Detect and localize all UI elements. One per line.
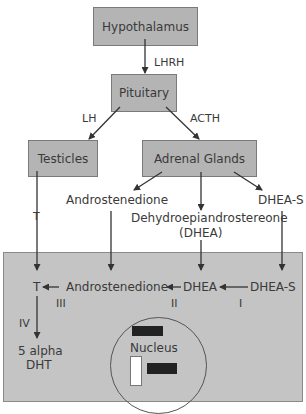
t-cell-label: T bbox=[33, 280, 40, 294]
acth-label: ACTH bbox=[190, 112, 220, 125]
dheas-top-label: DHEA-S bbox=[258, 193, 304, 207]
dhea-long-label-line1: Dehydroepiandrostereone bbox=[131, 211, 288, 225]
dhea-long-label-line2: (DHEA) bbox=[179, 226, 222, 240]
step-ii-label: II bbox=[171, 297, 178, 310]
step-iii-label: III bbox=[56, 297, 66, 310]
arrow-adrenal-dheas bbox=[234, 172, 262, 190]
dhea-cell-label: DHEA bbox=[183, 280, 217, 294]
dht-label-line2: DHT bbox=[26, 358, 52, 372]
receptor-block-top bbox=[132, 326, 163, 336]
receptor-block-bottom bbox=[147, 363, 177, 374]
dheas-cell-label: DHEA-S bbox=[250, 280, 296, 294]
nucleus-label: Nucleus bbox=[130, 341, 178, 355]
t-edge-label: T bbox=[33, 210, 40, 223]
dht-label-line1: 5 alpha bbox=[18, 344, 63, 358]
androstenedione-top-label: Androstenedione bbox=[66, 193, 168, 207]
androstenedione-cell-label: Androstenedione bbox=[66, 280, 168, 294]
lhrh-label: LHRH bbox=[154, 56, 184, 69]
dna-block bbox=[130, 356, 142, 386]
step-iv-label: IV bbox=[19, 317, 30, 330]
step-i-label: I bbox=[239, 297, 242, 310]
lh-label: LH bbox=[82, 112, 96, 125]
arrow-adrenal-androstenedione bbox=[134, 172, 162, 190]
